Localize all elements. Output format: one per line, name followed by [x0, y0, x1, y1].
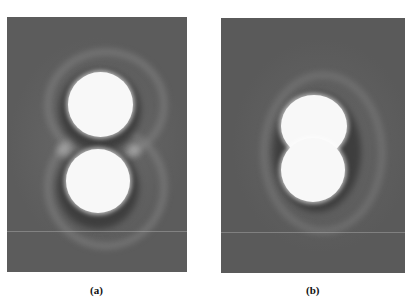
bright-spot-top: [68, 72, 133, 137]
panel-b-image: [221, 18, 405, 273]
caption-b: (b): [306, 284, 319, 296]
panel-a-image: [7, 17, 187, 272]
caption-a: (a): [90, 284, 103, 296]
bright-spot-bottom: [281, 138, 345, 202]
bright-spot-bottom: [66, 149, 130, 213]
waist-glow-left: [57, 143, 71, 157]
waist-glow-right: [127, 143, 141, 157]
